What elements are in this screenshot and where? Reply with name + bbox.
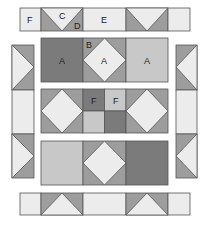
label-row1-right-a: A (144, 56, 150, 66)
label-top-c: C (59, 11, 66, 21)
bottom-strip-start-patch (20, 193, 41, 215)
top-strip-end-patch (168, 8, 190, 31)
row3-light-square (41, 141, 83, 185)
label-top-f: F (27, 15, 33, 25)
quilt-diagram: F C D E B A A A F F (0, 0, 204, 226)
label-top-d: D (74, 21, 81, 31)
left-strip (12, 45, 34, 178)
row2-four-patch-bottom-left (83, 111, 105, 133)
center-row-2 (41, 89, 168, 133)
row3-dark-square (126, 141, 168, 185)
center-row-3 (41, 141, 168, 185)
label-top-e: E (101, 15, 107, 25)
right-strip (176, 45, 197, 178)
left-strip-plain-patch (12, 90, 34, 134)
label-center-b: B (86, 40, 92, 50)
label-row2-f-left: F (91, 96, 97, 106)
label-row2-f-right: F (113, 96, 119, 106)
bottom-strip-middle-patch (83, 193, 126, 215)
label-row1-left-a: A (59, 56, 65, 66)
label-row1-mid-a: A (101, 56, 107, 66)
bottom-strip-end-patch (168, 193, 190, 215)
row2-four-patch-bottom-right (105, 111, 127, 133)
right-strip-plain-patch (176, 90, 197, 134)
bottom-strip (20, 193, 190, 215)
